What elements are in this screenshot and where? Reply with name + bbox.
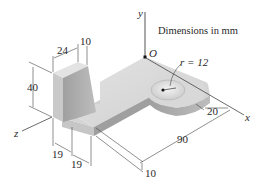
dimension-24: 24 <box>57 45 68 56</box>
hole <box>146 75 206 107</box>
units-note: Dimensions in mm <box>158 26 238 37</box>
dimension-10-bottom: 10 <box>145 168 156 179</box>
upright-block <box>53 62 96 122</box>
dimension-19-a: 19 <box>52 149 63 160</box>
y-axis-label: y <box>138 8 143 19</box>
x-axis-label: x <box>245 112 250 123</box>
dimension-19-b: 19 <box>71 159 82 170</box>
dimension-90: 90 <box>177 134 188 145</box>
dimension-20: 20 <box>207 106 218 117</box>
bracket-isometric-drawing: y O x z Dimensions in mm r = 12 24 10 40… <box>0 0 259 186</box>
z-axis-label: z <box>14 128 18 139</box>
z-axis-line <box>22 117 52 131</box>
origin-label: O <box>149 48 157 59</box>
radius-label: r = 12 <box>180 57 208 68</box>
dimension-40: 40 <box>27 82 38 93</box>
dimension-10-top: 10 <box>80 36 91 47</box>
